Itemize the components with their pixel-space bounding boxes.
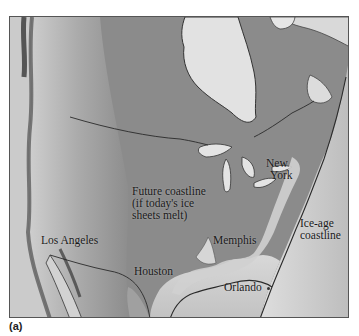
panel-label: (a): [9, 320, 22, 332]
future-coastline-line3: sheets melt): [132, 209, 232, 221]
label-orlando: Orlando: [224, 281, 262, 293]
label-new-york: New York: [266, 157, 306, 181]
new-york-line2: York: [266, 169, 306, 181]
label-houston: Houston: [134, 265, 173, 277]
new-york-line1: New: [266, 157, 306, 169]
future-coastline-line2: (if today's ice: [132, 197, 232, 209]
label-memphis: Memphis: [213, 234, 256, 246]
label-future-coastline: Future coastline (if today's ice sheets …: [132, 185, 232, 221]
ice-age-line1: Ice-age: [300, 217, 349, 229]
future-coastline-line1: Future coastline: [132, 185, 232, 197]
label-ice-age-coastline: Ice-age coastline: [300, 217, 349, 241]
ice-age-line2: coastline: [300, 229, 349, 241]
label-los-angeles: Los Angeles: [41, 234, 98, 246]
map-frame: Los Angeles Future coastline (if today's…: [9, 16, 349, 318]
orlando-dot-icon: [267, 287, 270, 290]
